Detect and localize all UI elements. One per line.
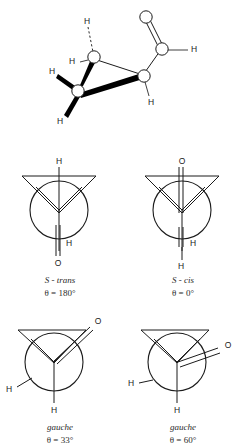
label-h-acid-hydroxyl: H [191,44,197,54]
newman-top-atom-label: O [179,156,186,166]
conformer-angle-s-trans: θ = 180° [45,288,76,298]
chemistry-conformation-figure: H H H H H H H H O S - tran [0,0,247,447]
back-double-bond-to-oxygen [178,348,220,367]
newman-inner-h-label: H [66,238,72,248]
atom-o-hydroxyl-ring [88,51,100,63]
atom-c-carbinol [72,85,84,97]
hydrogen-bond-dashed [88,27,93,52]
label-h-hydroxyl-donor: H [84,16,90,26]
carbonyl-double-bond [146,20,162,46]
atom-o-acid-hydroxyl [156,43,168,55]
newman-bottom-atom-label: H [178,261,184,271]
newman-projection-gauche-60: O H H gauche θ = 60° [125,305,245,447]
atom-c-carboxyl [138,70,150,82]
label-h-methylene-upper-left: H [49,66,55,76]
newman-inner-h-label: H [190,238,196,248]
atom-o-carbonyl [140,11,152,23]
conformer-angle-gauche-60: θ = 60° [170,435,197,445]
newman-projection-gauche-33: O H H gauche θ = 33° [2,305,122,447]
label-h-methylene-lower-left: H [57,116,63,126]
back-carbon-wings [141,330,209,363]
left-h-bond [17,378,32,387]
newman-bottom-atom-label: H [51,405,57,415]
label-h-on-hydroxymethyl-carbon: H [69,56,75,66]
top-double-bond [179,167,183,213]
conformer-name-gauche-60: gauche [170,422,196,432]
newman-bottom-atom-label: H [174,405,180,415]
newman-projection-s-trans: H H O S - trans θ = 180° [2,155,122,300]
back-carbon-wings [145,176,219,213]
conformer-angle-gauche-33: θ = 33° [47,435,74,445]
label-h-on-carbinol-carbon: H [148,97,154,107]
conformer-name-s-cis: S - cis [172,275,194,285]
newman-left-atom-label: H [128,378,134,388]
newman-right-atom-label: O [225,340,232,350]
newman-top-right-atom-label: O [95,316,102,326]
newman-left-atom-label: H [6,384,12,394]
back-double-bond-to-oxygen [54,327,93,364]
left-h-bond [139,380,153,383]
newman-top-atom-label: H [56,156,62,166]
conformer-angle-s-cis: θ = 0° [172,288,194,298]
wedge-bonds [56,59,143,118]
perspective-structure: H H H H H H [0,0,247,150]
newman-bottom-atom-label: O [55,258,62,268]
conformer-name-s-trans: S - trans [45,275,76,285]
conformer-name-gauche-33: gauche [47,422,73,432]
newman-projection-s-cis: O H H S - cis θ = 0° [125,155,245,300]
